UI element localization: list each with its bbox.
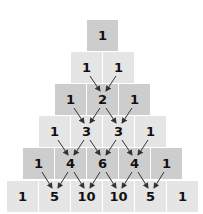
arrow-icon bbox=[42, 76, 164, 188]
arrows-layer bbox=[0, 0, 203, 214]
